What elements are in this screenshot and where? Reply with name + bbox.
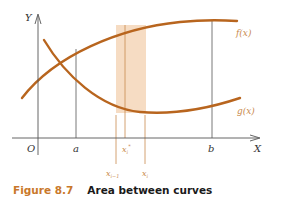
figure-title: Area between curves <box>87 184 212 196</box>
y-axis-label: Y <box>25 12 33 23</box>
x-star-label: xi* <box>122 143 131 155</box>
b-label: b <box>208 143 214 154</box>
x-i-label: xi <box>142 169 149 179</box>
area-between-curves-figure: Y X O a b f(x) g(x) xi* xi−1 xi <box>0 0 281 202</box>
origin-label: O <box>27 143 35 154</box>
g-label: g(x) <box>237 106 255 116</box>
a-label: a <box>73 143 79 154</box>
x-prev-label: xi−1 <box>106 169 120 179</box>
figure-number: Figure 8.7 <box>13 184 73 196</box>
shaded-strip <box>116 25 146 113</box>
x-axis-label: X <box>253 143 262 154</box>
figure-caption: Figure 8.7Area between curves <box>13 184 212 196</box>
f-label: f(x) <box>235 28 252 38</box>
